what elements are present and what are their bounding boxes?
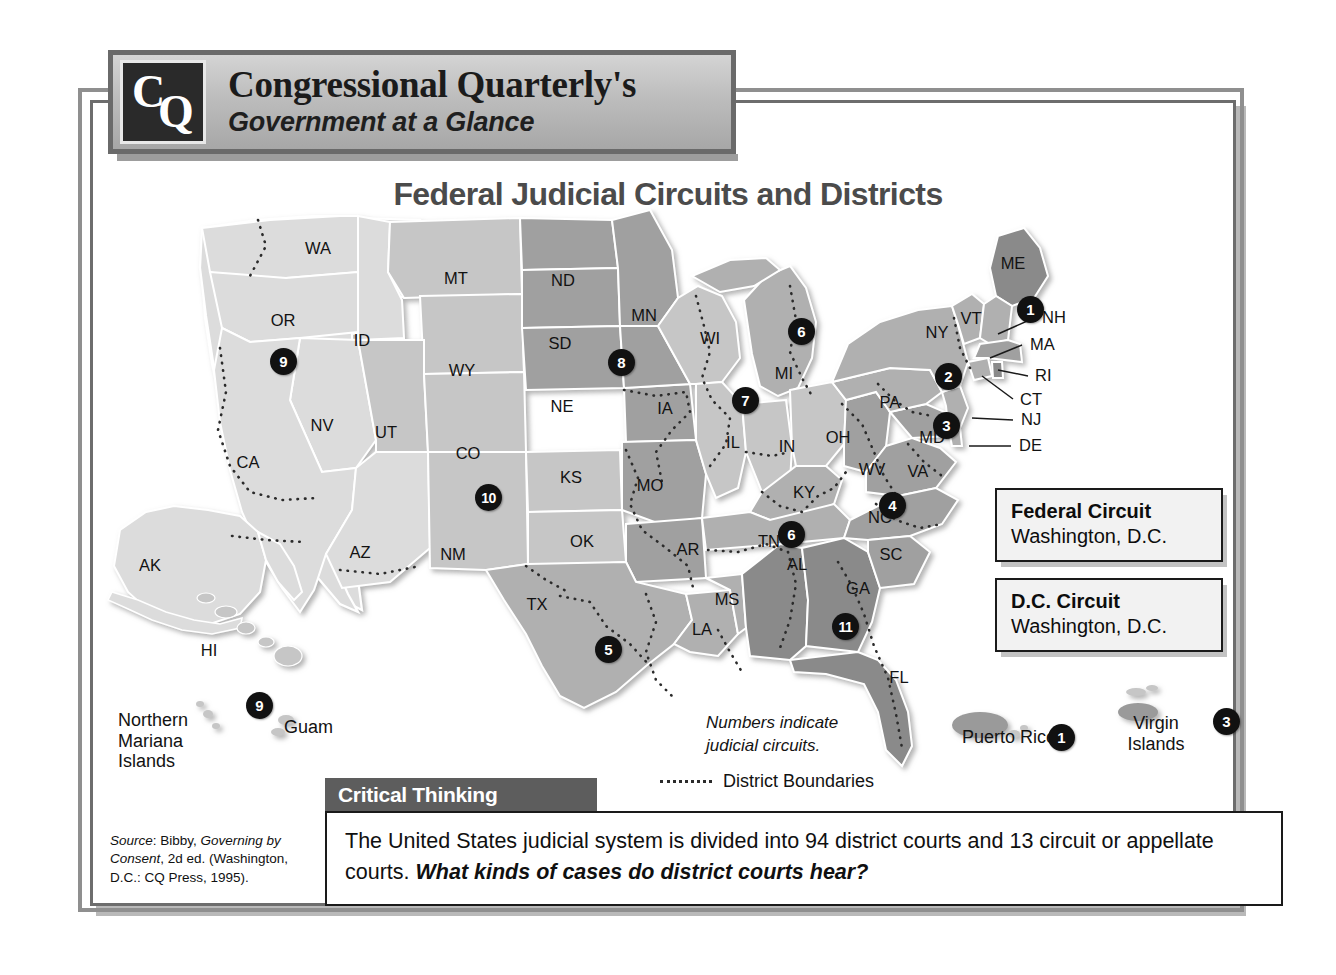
state-label-WV: WV [859, 460, 886, 478]
state-label-VT: VT [960, 309, 981, 327]
state-label-NJ: NJ [1021, 410, 1041, 428]
state-label-TX: TX [526, 595, 547, 613]
state-label-SC: SC [880, 545, 903, 563]
critical-thinking-body: The United States judicial system is div… [325, 811, 1283, 906]
state-label-KS: KS [560, 468, 582, 486]
state-label-OR: OR [271, 311, 296, 329]
state-label-MS: MS [715, 590, 740, 608]
circuit-box-title: Federal Circuit [1011, 499, 1207, 524]
circuit-badge-3: 3 [1213, 708, 1240, 735]
territory-northern-mariana-islands-shape [196, 701, 220, 729]
circuit-badge-9: 9 [246, 692, 273, 719]
state-label-LA: LA [692, 620, 712, 638]
state-label-TN: TN [758, 532, 780, 550]
dotted-line-icon [660, 780, 712, 783]
state-CT [968, 358, 992, 380]
state-label-VA: VA [908, 462, 929, 480]
territory-label-puerto-rico: Puerto Rico [962, 727, 1056, 748]
state-label-NY: NY [926, 323, 949, 341]
circuit-box-location: Washington, D.C. [1011, 614, 1207, 639]
source-text-1: : Bibby, [153, 833, 201, 848]
state-label-NV: NV [311, 416, 334, 434]
circuit-badge-4: 4 [879, 492, 906, 519]
cq-logo-letter-q: Q [158, 89, 194, 135]
state-label-MO: MO [637, 476, 664, 494]
state-label-AL: AL [787, 555, 807, 573]
state-label-MI: MI [775, 364, 793, 382]
legend-district-boundaries: District Boundaries [660, 771, 874, 792]
circuit-badge-10: 10 [475, 484, 502, 511]
state-label-NE: NE [551, 397, 574, 415]
critical-thinking-tab-label: Critical Thinking [338, 783, 497, 807]
circuit-badge-9: 9 [270, 348, 297, 375]
legend-numbers-note-line2: judicial circuits. [706, 735, 838, 758]
critical-thinking-tab: Critical Thinking [325, 778, 597, 811]
state-label-AK: AK [139, 556, 161, 574]
territory-label-line: Guam [284, 717, 333, 738]
state-label-PA: PA [880, 393, 901, 411]
legend-numbers-note-line1: Numbers indicate [706, 712, 838, 735]
source-note: Source: Bibby, Governing by Consent, 2d … [110, 832, 310, 887]
state-ND [520, 218, 618, 270]
state-label-IA: IA [657, 399, 673, 417]
state-label-CA: CA [237, 453, 260, 471]
circuit-box-location: Washington, D.C. [1011, 524, 1207, 549]
territory-label-virgin-islands: VirginIslands [1127, 713, 1184, 754]
state-label-KY: KY [793, 483, 815, 501]
circuit-badge-7: 7 [732, 387, 759, 414]
legend-numbers-note: Numbers indicate judicial circuits. [706, 712, 838, 758]
territory-label-line: Northern [118, 710, 188, 731]
state-label-ME: ME [1001, 254, 1026, 272]
territory-label-northern-mariana-islands: NorthernMarianaIslands [118, 710, 188, 772]
circuit-badge-2: 2 [935, 363, 962, 390]
state-label-RI: RI [1035, 366, 1052, 384]
header-title: Congressional Quarterly's [228, 66, 636, 104]
state-label-AR: AR [677, 540, 700, 558]
state-label-OH: OH [826, 428, 851, 446]
header-subtitle: Government at a Glance [228, 108, 636, 138]
state-MA [974, 340, 1022, 362]
state-label-AZ: AZ [349, 543, 370, 561]
state-label-WA: WA [305, 239, 331, 257]
territory-label-guam: Guam [284, 717, 333, 738]
state-WA [202, 216, 358, 280]
circuit-box-1: Federal CircuitWashington, D.C. [995, 488, 1223, 562]
state-label-UT: UT [375, 423, 397, 441]
state-MO [622, 440, 706, 524]
territory-label-line: Islands [118, 751, 188, 772]
state-label-ND: ND [551, 271, 575, 289]
circuit-badge-8: 8 [608, 349, 635, 376]
map-title: Federal Judicial Circuits and Districts [0, 176, 1336, 213]
state-label-ID: ID [354, 331, 371, 349]
cq-header-plate: C Q Congressional Quarterly's Government… [108, 50, 736, 154]
state-label-CT: CT [1020, 390, 1042, 408]
circuit-badge-6: 6 [778, 521, 805, 548]
critical-thinking-question: What kinds of cases do district courts h… [416, 860, 869, 884]
circuit-box-2: D.C. CircuitWashington, D.C. [995, 578, 1223, 652]
state-label-CO: CO [456, 444, 481, 462]
state-label-HI: HI [201, 641, 218, 659]
state-label-MN: MN [631, 306, 657, 324]
territory-label-line: Islands [1127, 734, 1184, 755]
circuit-badge-3: 3 [933, 412, 960, 439]
state-label-DE: DE [1019, 436, 1042, 454]
state-NH [980, 296, 1012, 344]
circuit-box-title: D.C. Circuit [1011, 589, 1207, 614]
state-label-WY: WY [449, 361, 476, 379]
cq-logo: C Q [120, 60, 206, 144]
infographic-page: C Q Congressional Quarterly's Government… [0, 0, 1336, 975]
circuit-badge-5: 5 [595, 636, 622, 663]
state-label-WI: WI [700, 329, 720, 347]
state-label-SD: SD [549, 334, 572, 352]
state-label-OK: OK [570, 532, 594, 550]
state-CO [424, 372, 526, 452]
territory-label-line: Virgin [1127, 713, 1184, 734]
territory-label-line: Puerto Rico [962, 727, 1056, 748]
source-prefix: Source [110, 833, 153, 848]
circuit-badge-6: 6 [788, 318, 815, 345]
state-label-IL: IL [726, 433, 740, 451]
state-label-NH: NH [1042, 308, 1066, 326]
state-label-MT: MT [444, 269, 468, 287]
state-label-NM: NM [440, 545, 466, 563]
state-OH [790, 382, 846, 466]
